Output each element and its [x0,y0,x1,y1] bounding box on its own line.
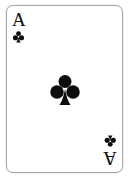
playing-card-ace-of-clubs[interactable]: A [6,5,123,173]
card-scene: A [0,0,131,181]
rank-label-bottom-right: A [103,149,117,168]
club-icon-bottom-right [104,135,117,148]
club-icon-center [49,73,81,106]
corner-index-bottom-right: A [103,135,117,168]
